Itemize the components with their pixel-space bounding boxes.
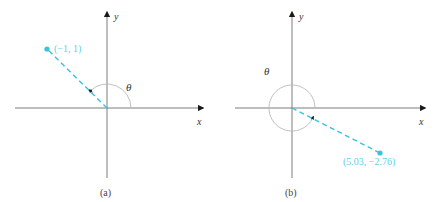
- y-axis-label: y: [113, 11, 119, 22]
- angle-label: θ: [264, 65, 270, 77]
- point-marker: [377, 150, 382, 155]
- panel-a: y x θ (−1, 1) (a): [15, 11, 203, 199]
- panel-caption: (b): [285, 187, 297, 199]
- point-label: (−1, 1): [54, 43, 81, 55]
- diagram-canvas: y x θ (−1, 1) (a) y x θ (5.03, −2.76) (b…: [0, 0, 441, 202]
- arc-arrowhead-icon: [312, 117, 313, 119]
- angle-arc: [90, 84, 131, 108]
- angle-label: θ: [126, 81, 132, 93]
- x-axis-label: x: [418, 116, 424, 127]
- terminal-side: [47, 49, 107, 108]
- terminal-side: [292, 108, 380, 153]
- point-label: (5.03, −2.76): [343, 156, 395, 168]
- x-axis-label: x: [196, 116, 202, 127]
- point-marker: [44, 46, 49, 51]
- panel-b: y x θ (5.03, −2.76) (b): [235, 11, 425, 199]
- panel-caption: (a): [100, 187, 111, 199]
- y-axis-label: y: [298, 11, 304, 22]
